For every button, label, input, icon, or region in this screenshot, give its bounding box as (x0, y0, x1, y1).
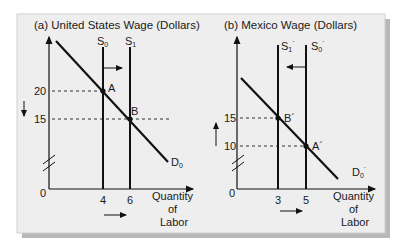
panel-a-title: (a) United States Wage (Dollars) (34, 19, 200, 31)
y-tick-15: 15 (224, 112, 236, 124)
point-b-prime-marker (275, 115, 280, 120)
x-tick-4: 4 (100, 194, 106, 206)
point-b-prime-label: B´ (284, 112, 295, 124)
y-tick-20: 20 (34, 85, 46, 97)
point-a-label: A (108, 82, 116, 94)
x-tick-5: 5 (303, 194, 309, 206)
point-b-label: B (131, 105, 138, 117)
point-a-marker (100, 88, 105, 93)
panel-b-title: (b) Mexico Wage (Dollars) (224, 19, 357, 31)
point-a-prime-label: A´ (312, 140, 323, 152)
y-tick-10: 10 (224, 140, 236, 152)
x-tick-6: 6 (127, 194, 133, 206)
origin-label: 0 (229, 187, 235, 199)
labor-market-diagram: (a) United States Wage (Dollars) A B S0 … (0, 0, 403, 249)
panel-background (17, 14, 385, 233)
point-a-prime-marker (303, 143, 308, 148)
y-tick-15: 15 (34, 113, 46, 125)
origin-label: 0 (40, 187, 46, 199)
point-b-marker (127, 116, 132, 121)
x-tick-3: 3 (275, 194, 281, 206)
